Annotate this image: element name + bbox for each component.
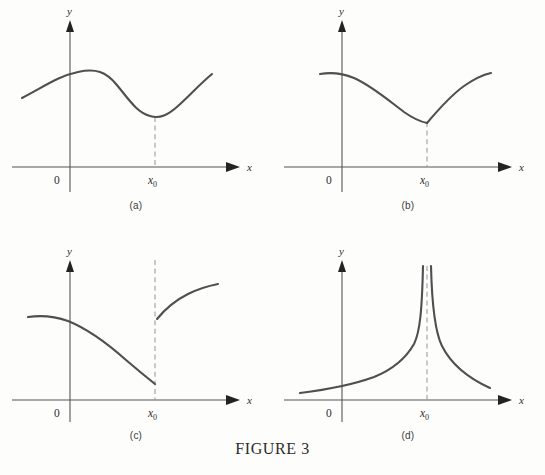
x-axis-arrowhead-a [226, 162, 240, 172]
panel-b-plot: y x 0 x0 [272, 2, 544, 202]
origin-label-b: 0 [326, 174, 332, 186]
y-axis-label-a: y [66, 5, 72, 17]
panel-d: y x 0 x0 (d) [272, 232, 544, 457]
panel-c-plot: y x 0 x0 [0, 232, 272, 432]
panel-c: y x 0 x0 (c) [0, 232, 272, 457]
x0-label-sub-a: 0 [153, 180, 157, 189]
panel-a: y x 0 x0 (a) [0, 2, 272, 227]
x0-label-d: x0 [419, 407, 429, 422]
x-axis-label-a: x [246, 161, 252, 173]
x-axis-arrowhead-b [498, 162, 512, 172]
panel-d-plot: y x 0 x0 [272, 232, 544, 432]
x-axis-arrowhead-d [498, 395, 512, 405]
x-axis-label-b: x [518, 161, 524, 173]
x0-label-sub-c: 0 [153, 413, 157, 422]
curve-left-branch-b [320, 73, 427, 123]
y-axis-label-c: y [66, 245, 72, 257]
x0-label-sub-d: 0 [425, 413, 429, 422]
figure-caption: FIGURE 3 [0, 440, 545, 458]
x-axis-arrowhead-c [226, 395, 240, 405]
y-axis-label-d: y [338, 245, 344, 257]
x-axis-label-c: x [246, 394, 252, 406]
panel-caption-a: (a) [0, 200, 272, 211]
y-axis-arrowhead-d [338, 260, 346, 272]
x-axis-label-d: x [518, 394, 524, 406]
y-axis-arrowhead-a [66, 20, 74, 32]
y-axis-arrowhead-b [338, 20, 346, 32]
curve-right-branch-c [157, 284, 218, 319]
panel-b: y x 0 x0 (b) [272, 2, 544, 227]
panel-a-plot: y x 0 x0 [0, 2, 272, 202]
origin-label-c: 0 [54, 407, 60, 419]
origin-label-a: 0 [54, 174, 60, 186]
panel-caption-b: (b) [272, 200, 544, 211]
curve-right-branch-d [431, 266, 490, 388]
curve-left-branch-d [300, 266, 423, 393]
figure-container: y x 0 x0 (a) y x 0 x0 (b) [0, 0, 545, 475]
y-axis-label-b: y [338, 5, 344, 17]
origin-label-d: 0 [326, 407, 332, 419]
y-axis-arrowhead-c [66, 260, 74, 272]
x0-label-sub-b: 0 [425, 180, 429, 189]
curve-right-branch-b [427, 73, 491, 123]
curve-smooth-minimum-a [22, 71, 212, 117]
x0-label-a: x0 [147, 174, 157, 189]
x0-label-b: x0 [419, 174, 429, 189]
curve-left-branch-c [28, 316, 155, 384]
x0-label-c: x0 [147, 407, 157, 422]
